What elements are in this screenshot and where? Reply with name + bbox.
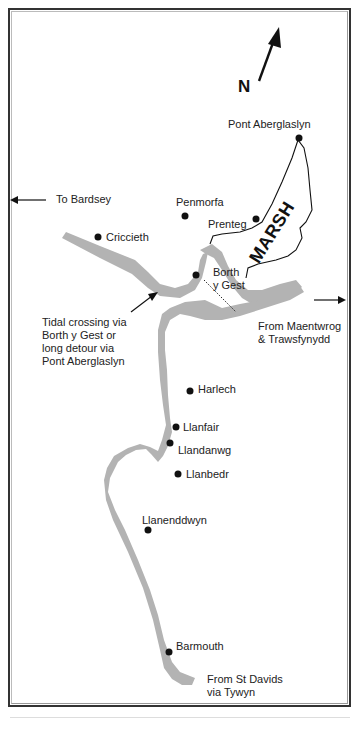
annotation-from-maentwrog: From Maentwrog & Trawsfynydd bbox=[258, 320, 341, 346]
place-dot-llanfair bbox=[173, 424, 180, 431]
compass-label: N bbox=[238, 77, 250, 97]
place-dot-pont-aberglaslyn bbox=[296, 135, 303, 142]
place-dot-llanbedr bbox=[175, 471, 182, 478]
place-label-penmorfa: Penmorfa bbox=[176, 196, 224, 209]
place-label-harlech: Harlech bbox=[198, 383, 236, 396]
route-map: N MARSH Pont Aberglaslyn Penmorfa Prente… bbox=[0, 0, 356, 732]
route-path bbox=[62, 232, 304, 685]
annotation-to-bardsey: To Bardsey bbox=[56, 193, 111, 206]
place-label-llanenddwyn: Llanenddwyn bbox=[142, 514, 207, 527]
place-dot-criccieth bbox=[95, 234, 102, 241]
pointer-arrow-icon bbox=[131, 292, 158, 312]
place-dot-borth-y-gest bbox=[193, 272, 200, 279]
annotation-tidal-crossing: Tidal crossing via Borth y Gest or long … bbox=[42, 316, 127, 368]
annotation-from-st-davids: From St Davids via Tywyn bbox=[207, 673, 283, 699]
place-label-borth-y-gest: Borth y Gest bbox=[213, 266, 245, 292]
place-label-prenteg: Prenteg bbox=[208, 218, 247, 231]
place-label-llanfair: Llanfair bbox=[183, 421, 219, 434]
place-dot-prenteg bbox=[253, 216, 260, 223]
place-label-llanbedr: Llanbedr bbox=[186, 468, 229, 481]
place-label-barmouth: Barmouth bbox=[176, 640, 224, 653]
arrow-right-icon bbox=[314, 296, 346, 304]
arrow-left-icon bbox=[10, 196, 46, 204]
north-arrow-icon bbox=[259, 27, 281, 81]
place-dot-penmorfa bbox=[182, 213, 189, 220]
place-dot-harlech bbox=[187, 388, 194, 395]
place-dot-llandanwg bbox=[167, 440, 174, 447]
place-label-criccieth: Criccieth bbox=[106, 231, 149, 244]
place-dot-barmouth bbox=[166, 649, 173, 656]
place-label-llandanwg: Llandanwg bbox=[178, 444, 231, 457]
place-dot-llanenddwyn bbox=[145, 527, 152, 534]
place-label-pont-aberglaslyn: Pont Aberglaslyn bbox=[228, 118, 311, 131]
